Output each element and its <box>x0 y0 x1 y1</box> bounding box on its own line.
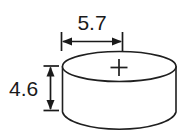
diameter-arrow-right <box>112 38 122 46</box>
height-value-label: 4.6 <box>9 77 38 100</box>
height-arrow-top <box>47 67 55 77</box>
height-arrow-bottom <box>47 100 55 110</box>
diameter-value-label: 5.7 <box>77 11 106 34</box>
diameter-arrow-left <box>62 38 72 46</box>
coin-cell-body-group <box>63 52 177 130</box>
coin-cell-dimension-diagram: 5.7 4.6 <box>0 0 194 138</box>
technical-drawing-canvas: 5.7 4.6 <box>0 0 194 138</box>
height-dimension-group: 4.6 <box>9 66 59 111</box>
diameter-dimension-group: 5.7 <box>62 11 123 51</box>
